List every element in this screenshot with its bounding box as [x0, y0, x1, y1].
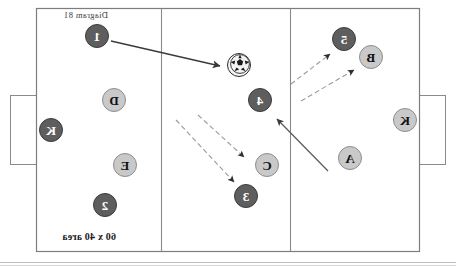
player-label: B — [367, 51, 376, 64]
diagram-page: 5 B K A 4 C 3 1 D K E 2 Diagram 81 60 x … — [0, 0, 456, 266]
page-bottom-rule — [0, 262, 456, 263]
player-label: D — [109, 94, 118, 107]
player-marker-1[interactable]: 1 — [85, 24, 109, 48]
player-marker-keeper-right[interactable]: K — [39, 118, 63, 142]
goal-right — [11, 96, 37, 165]
player-marker-E[interactable]: E — [113, 153, 137, 177]
player-marker-C[interactable]: C — [255, 153, 279, 177]
soccer-ball-pattern — [230, 54, 250, 74]
player-marker-keeper-left[interactable]: K — [393, 108, 417, 132]
player-label: K — [400, 114, 410, 127]
player-marker-B[interactable]: B — [359, 45, 383, 69]
player-marker-A[interactable]: A — [338, 146, 362, 170]
player-marker-D[interactable]: D — [102, 88, 126, 112]
player-label: C — [262, 159, 271, 172]
soccer-ball-icon — [227, 53, 251, 77]
player-marker-4[interactable]: 4 — [248, 88, 272, 112]
player-label: 1 — [94, 30, 101, 43]
player-label: 2 — [102, 199, 109, 212]
area-size-label: 60 x 40 area — [62, 231, 116, 242]
player-label: 4 — [257, 94, 264, 107]
player-label: A — [345, 152, 354, 165]
player-marker-2[interactable]: 2 — [93, 193, 117, 217]
player-label: 3 — [243, 190, 250, 203]
soccer-field-graphic — [0, 0, 456, 266]
player-label: E — [121, 159, 130, 172]
diagram-title: Diagram 81 — [64, 10, 108, 20]
player-label: K — [46, 124, 56, 137]
player-marker-3[interactable]: 3 — [234, 184, 258, 208]
goal-left — [420, 96, 446, 165]
player-label: 5 — [341, 33, 348, 46]
player-marker-5[interactable]: 5 — [332, 27, 356, 51]
